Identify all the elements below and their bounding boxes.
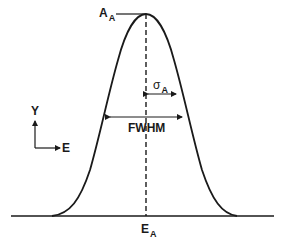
centroid-label: EA xyxy=(141,223,157,235)
sigma-label: σA xyxy=(153,79,168,91)
gaussian-peak-diagram: AA σA FWHM EA Y E xyxy=(0,0,292,247)
fwhm-label: FWHM xyxy=(128,122,165,134)
peak-amplitude-label: AA xyxy=(99,7,115,19)
y-axis-label: Y xyxy=(31,105,39,117)
x-axis-label: E xyxy=(62,142,70,154)
gaussian-curve xyxy=(52,14,237,216)
